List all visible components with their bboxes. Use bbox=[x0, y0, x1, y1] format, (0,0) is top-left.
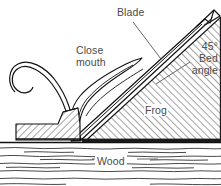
label-wood: Wood bbox=[95, 155, 127, 167]
label-close-mouth-line2: mouth bbox=[76, 56, 106, 68]
label-close-mouth: Close mouth bbox=[76, 44, 106, 68]
label-blade: Blade bbox=[117, 6, 144, 18]
plane-sole-bar bbox=[82, 139, 221, 142]
label-bed-angle-degrees: 45° bbox=[192, 40, 218, 52]
leader-blade bbox=[133, 22, 161, 59]
label-frog-text: Frog bbox=[145, 104, 167, 116]
label-wood-text: Wood bbox=[97, 155, 125, 167]
label-close-mouth-line1: Close bbox=[76, 44, 106, 56]
label-bed-angle-line2: Bed bbox=[192, 52, 218, 64]
label-blade-text: Blade bbox=[117, 6, 144, 18]
label-bed-angle-line3: angle bbox=[192, 64, 218, 76]
label-frog: Frog bbox=[144, 104, 168, 116]
plane-diagram: Blade Close mouth 45° Bed angle Frog Woo… bbox=[0, 0, 221, 186]
plane-toe-block bbox=[16, 108, 80, 140]
label-bed-angle: 45° Bed angle bbox=[192, 40, 218, 76]
